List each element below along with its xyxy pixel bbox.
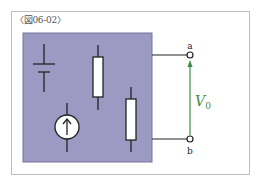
voltage-label: V0 xyxy=(195,93,211,111)
circuit-diagram: a b V0 xyxy=(0,0,257,182)
terminal-a-label: a xyxy=(187,41,193,51)
terminal-wires xyxy=(152,55,187,139)
voltage-arrow-icon xyxy=(188,60,193,135)
network-box xyxy=(23,33,152,162)
terminal-b xyxy=(187,136,193,142)
terminal-a xyxy=(187,52,193,58)
voltage-subscript: 0 xyxy=(205,101,211,111)
terminal-b-label: b xyxy=(187,146,193,156)
